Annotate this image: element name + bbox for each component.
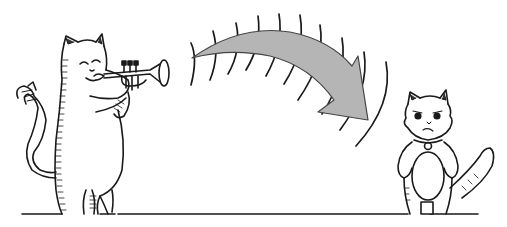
annoyed-small-cat	[398, 90, 458, 214]
trumpet	[104, 60, 169, 90]
illustration-scene	[0, 0, 507, 227]
curved-arrow	[192, 30, 368, 120]
trumpet-cat	[55, 34, 129, 214]
trumpet-cat-tail	[17, 82, 56, 178]
illustration-canvas	[0, 0, 507, 227]
